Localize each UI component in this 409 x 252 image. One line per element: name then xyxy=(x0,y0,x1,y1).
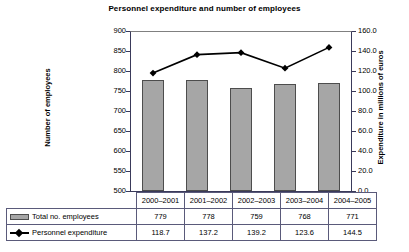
y-axis-right-tickmark-0 xyxy=(352,31,356,32)
bar-swatch-icon xyxy=(10,214,29,220)
table-cell-expenditure-3: 123.6 xyxy=(281,225,329,241)
table-cell-employees-3: 768 xyxy=(281,209,329,225)
legend-label-total-no-employees: Total no. employees xyxy=(32,212,99,221)
y-axis-right-tick-3: 100.0 xyxy=(358,87,392,95)
table-row-total-no-employees: Total no. employees 779 778 759 768 771 xyxy=(7,209,377,225)
y-axis-left-tick-2: 800 xyxy=(96,67,126,75)
y-axis-right-tickmark-2 xyxy=(352,71,356,72)
table-cell-employees-4: 771 xyxy=(329,209,377,225)
table-cell-expenditure-1: 137.2 xyxy=(185,225,233,241)
data-table: 2000–2001 2001–2002 2002–2003 2003–2004 … xyxy=(6,192,377,241)
y-axis-left-title: Number of employees xyxy=(43,23,52,193)
y-axis-left-tick-0: 900 xyxy=(96,27,126,35)
table-header-year-1: 2001–2002 xyxy=(185,193,233,209)
y-axis-right-tickmark-1 xyxy=(352,51,356,52)
chart-title: Personnel expenditure and number of empl… xyxy=(0,4,409,13)
table-cell-employees-2: 759 xyxy=(233,209,281,225)
y-axis-right-tickmark-5 xyxy=(352,131,356,132)
table-corner-cell xyxy=(7,193,137,209)
bar-series-total-no-employees xyxy=(131,32,351,191)
table-row-personnel-expenditure: Personnel expenditure 118.7 137.2 139.2 … xyxy=(7,225,377,241)
line-marker-diamond-icon xyxy=(10,229,29,236)
y-axis-right-tick-4: 80.0 xyxy=(358,107,392,115)
y-axis-right-tickmark-3 xyxy=(352,91,356,92)
y-axis-left-tick-3: 750 xyxy=(96,87,126,95)
y-axis-right-tick-1: 140.0 xyxy=(358,47,392,55)
table-cell-expenditure-2: 139.2 xyxy=(233,225,281,241)
bar-0 xyxy=(142,80,165,191)
y-axis-right-tick-5: 60.0 xyxy=(358,127,392,135)
y-axis-right-tick-0: 160.0 xyxy=(358,27,392,35)
bar-3 xyxy=(274,84,297,191)
table-cell-expenditure-4: 144.5 xyxy=(329,225,377,241)
table-cell-employees-1: 778 xyxy=(185,209,233,225)
bar-4 xyxy=(318,83,341,191)
y-axis-left-tick-7: 550 xyxy=(96,167,126,175)
table-row-years: 2000–2001 2001–2002 2002–2003 2003–2004 … xyxy=(7,193,377,209)
table-header-year-4: 2004–2005 xyxy=(329,193,377,209)
table-cell-employees-0: 779 xyxy=(137,209,185,225)
bar-2 xyxy=(230,88,253,191)
legend-item-total-no-employees: Total no. employees xyxy=(7,209,137,225)
y-axis-right-tick-6: 40.0 xyxy=(358,147,392,155)
y-axis-left-tick-4: 700 xyxy=(96,107,126,115)
table-header-year-2: 2002–2003 xyxy=(233,193,281,209)
y-axis-right-tick-2: 120.0 xyxy=(358,67,392,75)
chart-container: Personnel expenditure and number of empl… xyxy=(0,0,409,252)
legend-label-personnel-expenditure: Personnel expenditure xyxy=(32,228,107,237)
y-axis-left-tick-6: 600 xyxy=(96,147,126,155)
table-header-year-3: 2003–2004 xyxy=(281,193,329,209)
y-axis-left-tick-1: 850 xyxy=(96,47,126,55)
plot-area xyxy=(130,31,352,192)
table-cell-expenditure-0: 118.7 xyxy=(137,225,185,241)
legend-item-personnel-expenditure: Personnel expenditure xyxy=(7,225,137,241)
bar-1 xyxy=(186,80,209,191)
y-axis-right-tickmark-4 xyxy=(352,111,356,112)
y-axis-right-tick-7: 20.0 xyxy=(358,167,392,175)
y-axis-right-tickmark-6 xyxy=(352,151,356,152)
table-header-year-0: 2000–2001 xyxy=(137,193,185,209)
y-axis-right-tickmark-7 xyxy=(352,171,356,172)
y-axis-left-tick-5: 650 xyxy=(96,127,126,135)
